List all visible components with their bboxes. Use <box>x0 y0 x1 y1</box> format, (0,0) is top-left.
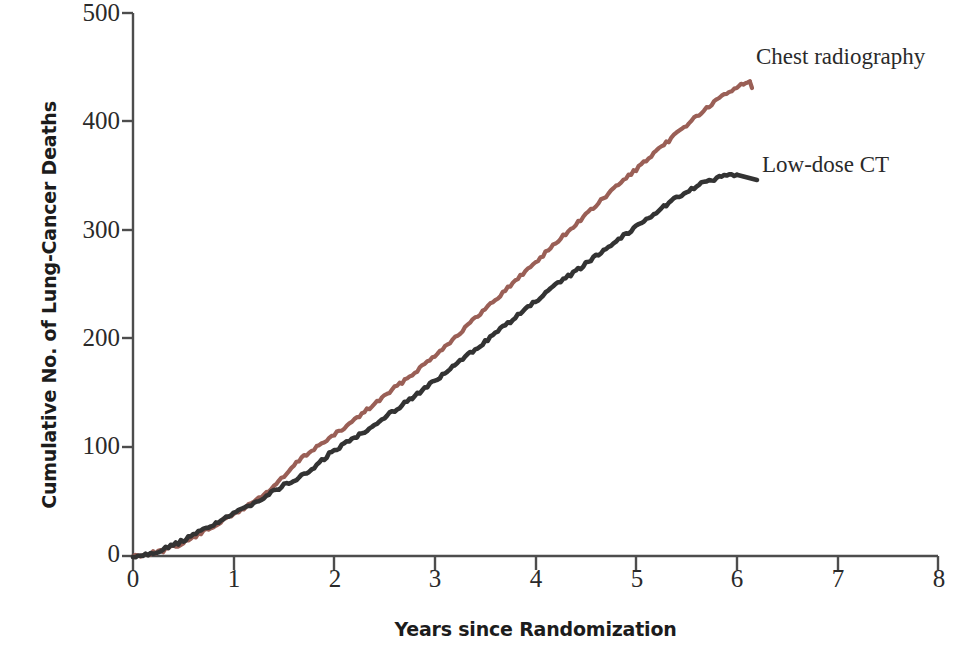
leader-line-chest-radiography <box>750 81 752 88</box>
series-label-low-dose-ct: Low-dose CT <box>762 152 889 178</box>
y-axis-ticks <box>122 13 133 556</box>
lung-cancer-mortality-chart: Cumulative No. of Lung-Cancer Deaths 500… <box>0 0 959 655</box>
series-line-chest-radiography <box>133 81 750 556</box>
x-axis-ticks <box>133 556 938 570</box>
series-label-chest-radiography: Chest radiography <box>756 44 925 70</box>
plot-area <box>0 0 959 655</box>
axis-lines <box>133 13 938 556</box>
leader-line-low-dose-ct <box>737 175 757 180</box>
series-line-low-dose-ct <box>133 174 737 557</box>
